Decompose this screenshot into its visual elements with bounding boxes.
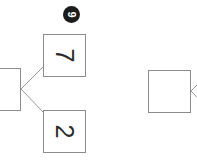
edge-right-to-offscreen-lower [191, 91, 197, 115]
edge-root-to-two [21, 89, 44, 113]
edge-right-to-offscreen-upper [191, 68, 197, 91]
node-seven[interactable]: 7 [43, 34, 86, 77]
edge-root-to-seven [21, 66, 44, 89]
node-two[interactable]: 2 [43, 110, 86, 153]
node-right-empty[interactable] [148, 70, 191, 113]
node-two-label: 2 [52, 125, 77, 139]
diagram-canvas: 7 2 9 [0, 0, 197, 165]
badge-nine-label: 9 [66, 11, 77, 17]
node-seven-label: 7 [52, 49, 77, 63]
badge-nine[interactable]: 9 [63, 6, 80, 23]
node-root-empty[interactable] [0, 68, 21, 111]
